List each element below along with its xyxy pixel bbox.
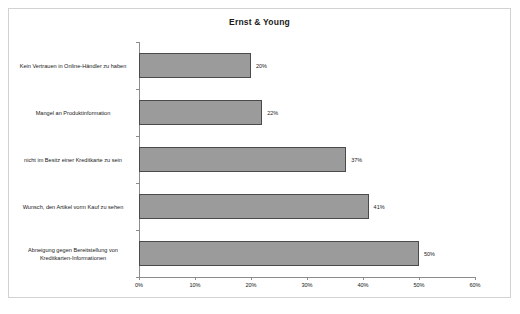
category-tick [136, 89, 139, 90]
bar-value-label: 41% [374, 204, 385, 210]
value-axis-tick-label: 10% [189, 282, 200, 288]
bar[interactable] [139, 241, 419, 266]
category-label: Mangel an Produktinformation [14, 109, 132, 117]
value-tick [251, 277, 252, 280]
category-label: Abneigung gegen Bereitstellung von Kredi… [14, 246, 132, 262]
bar[interactable] [139, 100, 262, 125]
value-axis-tick-label: 20% [245, 282, 256, 288]
category-label: nicht im Besitz einer Kreditkarte zu sei… [14, 156, 132, 164]
value-tick [139, 277, 140, 280]
bar[interactable] [139, 147, 346, 172]
chart-figure: Ernst & Young Kein Vertrauen in Online-H… [8, 8, 511, 298]
category-tick [136, 230, 139, 231]
value-tick [307, 277, 308, 280]
bar-row: nicht im Besitz einer Kreditkarte zu sei… [139, 147, 475, 172]
category-label: Wunsch, den Artikel vorm Kauf zu sehen [14, 203, 132, 211]
value-tick [419, 277, 420, 280]
value-axis-tick-label: 30% [301, 282, 312, 288]
category-tick [136, 136, 139, 137]
bar-value-label: 20% [256, 63, 267, 69]
value-axis-tick-label: 0% [135, 282, 143, 288]
bar-row: Mangel an Produktinformation 22% [139, 100, 475, 125]
bar-value-label: 50% [424, 251, 435, 257]
bar-row: Kein Vertrauen in Online-Händler zu habe… [139, 53, 475, 78]
bar-row: Wunsch, den Artikel vorm Kauf zu sehen 4… [139, 194, 475, 219]
category-tick [136, 183, 139, 184]
category-label: Kein Vertrauen in Online-Händler zu habe… [14, 62, 132, 70]
bar[interactable] [139, 53, 251, 78]
chart-title: Ernst & Young [9, 17, 510, 27]
value-axis-tick-label: 50% [413, 282, 424, 288]
category-tick [136, 42, 139, 43]
value-tick [363, 277, 364, 280]
value-axis-tick-label: 40% [357, 282, 368, 288]
value-tick [475, 277, 476, 280]
bar-value-label: 37% [351, 157, 362, 163]
value-axis-tick-label: 60% [469, 282, 480, 288]
bar[interactable] [139, 194, 369, 219]
plot-area: Kein Vertrauen in Online-Händler zu habe… [139, 42, 475, 277]
bar-value-label: 22% [267, 110, 278, 116]
bar-row: Abneigung gegen Bereitstellung von Kredi… [139, 241, 475, 266]
value-tick [195, 277, 196, 280]
